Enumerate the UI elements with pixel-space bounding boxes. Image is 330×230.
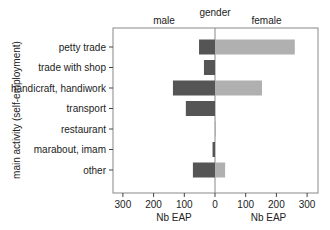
x-tick-label: 100: [176, 199, 193, 210]
x-tick-label: 200: [268, 199, 285, 210]
panel-label-male: male: [153, 15, 175, 26]
x-tick-label: 100: [237, 199, 254, 210]
bar-male: [213, 142, 215, 157]
bar-female: [215, 40, 295, 55]
x-axis-title-right: Nb EAP: [251, 212, 287, 223]
category-label: other: [83, 165, 106, 176]
bar-female: [215, 163, 225, 178]
bar-male: [186, 101, 215, 116]
bar-female: [215, 122, 216, 137]
bar-male: [204, 60, 215, 75]
x-tick-label: 300: [299, 199, 316, 210]
chart: gendermalefemalepetty tradetrade with sh…: [0, 0, 330, 230]
category-label: handicraft, handiwork: [11, 83, 107, 94]
x-tick-label: 200: [145, 199, 162, 210]
category-label: restaurant: [61, 124, 106, 135]
x-tick-label: 300: [115, 199, 132, 210]
category-label: trade with shop: [38, 62, 106, 73]
category-label: marabout, imam: [34, 144, 106, 155]
bar-male: [193, 163, 215, 178]
category-label: transport: [67, 103, 107, 114]
panel-label-female: female: [251, 15, 281, 26]
chart-title: gender: [199, 7, 231, 18]
bar-female: [215, 81, 262, 96]
bar-male: [173, 81, 215, 96]
category-label: petty trade: [59, 42, 107, 53]
bar-male: [199, 40, 215, 55]
x-axis-title-left: Nb EAP: [156, 212, 192, 223]
x-tick-label: 0: [212, 199, 218, 210]
y-axis-title: main activity (self-employment): [11, 41, 22, 179]
